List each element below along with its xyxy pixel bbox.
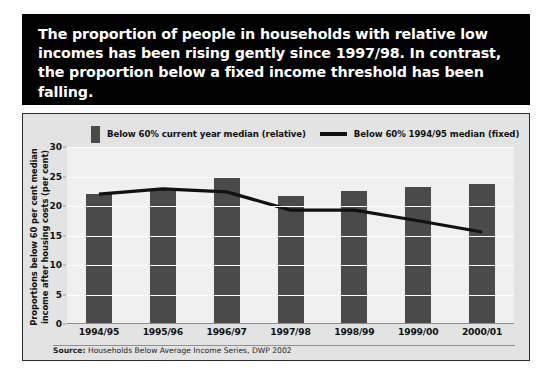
y-tick-label: 10 xyxy=(49,260,62,270)
y-tick-mark xyxy=(63,147,66,148)
y-tick-label: 20 xyxy=(49,201,62,211)
headline-text: The proportion of people in households w… xyxy=(38,25,514,102)
y-tick-mark xyxy=(63,176,66,177)
y-tick-label: 5 xyxy=(56,290,62,300)
line-series-path xyxy=(99,189,482,232)
legend-label-fixed: Below 60% 1994/95 median (fixed) xyxy=(354,129,519,139)
legend-label-relative: Below 60% current year median (relative) xyxy=(107,129,306,139)
legend-bar-swatch-icon xyxy=(91,126,100,143)
x-tick-label: 1995/96 xyxy=(143,326,183,337)
chart-legend: Below 60% current year median (relative)… xyxy=(91,124,515,144)
x-tick-label: 1996/97 xyxy=(206,326,246,337)
gridline xyxy=(67,265,514,266)
y-tick-label: 25 xyxy=(49,172,62,182)
y-tick-label: 0 xyxy=(56,319,62,329)
y-tick-mark xyxy=(63,235,66,236)
gridline xyxy=(67,295,514,296)
x-tick-label: 1999/00 xyxy=(398,326,438,337)
gridline xyxy=(67,206,514,207)
y-tick-mark xyxy=(63,324,66,325)
gridline xyxy=(67,177,514,178)
x-tick-label: 1994/95 xyxy=(79,326,119,337)
headline-banner: The proportion of people in households w… xyxy=(22,14,530,105)
source-note: Source: Households Below Average Income … xyxy=(53,346,292,355)
y-tick-mark xyxy=(63,206,66,207)
source-prefix: Source: xyxy=(53,346,86,355)
x-tick-label: 2000/01 xyxy=(462,326,502,337)
chart-page: The proportion of people in households w… xyxy=(0,0,552,374)
x-tick-label: 1998/99 xyxy=(334,326,374,337)
gridline xyxy=(67,147,514,148)
source-text: Households Below Average Income Series, … xyxy=(88,346,292,355)
gridline xyxy=(67,236,514,237)
axis-baseline xyxy=(67,323,514,324)
y-axis-title-line1: Proportions below 60 per cent median xyxy=(29,148,39,325)
y-tick-label: 30 xyxy=(49,142,62,152)
x-axis-labels: 1994/951995/961996/971997/981998/991999/… xyxy=(67,326,514,342)
y-tick-mark xyxy=(63,294,66,295)
legend-line-swatch-icon xyxy=(320,132,347,136)
chart-panel: Below 60% current year median (relative)… xyxy=(22,113,530,361)
legend-item-fixed: Below 60% 1994/95 median (fixed) xyxy=(320,129,519,139)
y-tick-label: 15 xyxy=(49,231,62,241)
legend-item-relative: Below 60% current year median (relative) xyxy=(91,126,306,143)
x-tick-label: 1997/98 xyxy=(270,326,310,337)
plot-area: 051015202530 xyxy=(67,147,514,324)
y-tick-mark xyxy=(63,265,66,266)
